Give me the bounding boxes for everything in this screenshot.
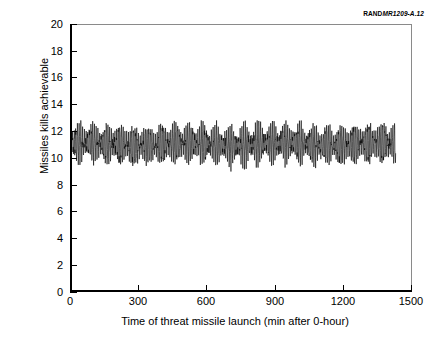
y-axis-label-2: 2 <box>21 260 63 271</box>
x-axis-label-1200: 1200 <box>313 296 373 307</box>
y-axis-tick-20 <box>70 24 77 25</box>
data-series-missile-kills <box>72 120 396 171</box>
x-axis-tick-1200 <box>343 285 344 292</box>
x-axis-label-0: 0 <box>40 296 100 307</box>
y-axis-tick-8 <box>70 185 77 186</box>
y-axis-tick-2 <box>70 265 77 266</box>
chart-plot-area <box>72 25 411 290</box>
y-axis-tick-0 <box>70 292 77 293</box>
rand-document-number: MR1209-A.12 <box>382 10 424 17</box>
y-axis-label-4: 4 <box>21 233 63 244</box>
x-axis-label-1500: 1500 <box>381 296 434 307</box>
figure-container: RANDMR1209-A.12 0 2 4 6 8 10 12 14 16 18… <box>0 0 434 345</box>
y-axis-title: Missiles kills achievable <box>38 1 50 231</box>
plot-frame <box>70 24 412 292</box>
x-axis-tick-600 <box>206 285 207 292</box>
x-axis-label-600: 600 <box>176 296 236 307</box>
x-axis-tick-300 <box>138 285 139 292</box>
y-axis-tick-6 <box>70 211 77 212</box>
x-axis-tick-0 <box>70 285 71 292</box>
x-axis-label-300: 300 <box>108 296 168 307</box>
y-axis-tick-10 <box>70 158 77 159</box>
rand-brand-label: RAND <box>363 10 382 17</box>
rand-document-identifier: RANDMR1209-A.12 <box>363 9 424 18</box>
y-axis-tick-4 <box>70 238 77 239</box>
x-axis-tick-900 <box>275 285 276 292</box>
x-axis-title: Time of threat missile launch (min after… <box>40 315 430 327</box>
y-axis-tick-18 <box>70 51 77 52</box>
x-axis-tick-1500 <box>411 285 412 292</box>
y-axis-tick-12 <box>70 131 77 132</box>
y-axis-tick-14 <box>70 104 77 105</box>
y-axis-tick-16 <box>70 77 77 78</box>
x-axis-label-900: 900 <box>245 296 305 307</box>
